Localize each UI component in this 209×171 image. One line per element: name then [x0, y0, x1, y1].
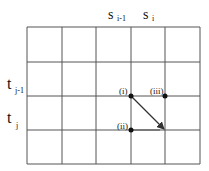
point-iii-label: (iii): [150, 86, 164, 96]
dtw-grid-diagram: s i-1 s i t j-1 t j (i) (iii) (ii): [0, 0, 209, 171]
row-label-sub: j-1: [14, 86, 24, 95]
col-label-base: s: [108, 7, 113, 22]
col-label-sub: i: [152, 14, 155, 23]
col-label-base: s: [143, 7, 148, 22]
warping-arrow: [131, 96, 164, 129]
point-i-label: (i): [119, 86, 128, 96]
row-label-t-j: t j: [7, 109, 18, 130]
column-label-s-i-1: s i-1: [108, 7, 126, 23]
col-label-sub: i-1: [117, 14, 126, 23]
point-i-dot: [129, 94, 134, 99]
row-label-t-j-1: t j-1: [7, 75, 24, 95]
row-label-base: t: [7, 75, 12, 92]
row-label-base: t: [7, 109, 12, 126]
column-label-s-i: s i: [143, 7, 155, 23]
grid: [27, 27, 200, 164]
point-ii-dot: [129, 128, 134, 133]
point-ii-label: (ii): [117, 121, 128, 131]
row-label-sub: j: [15, 121, 18, 130]
